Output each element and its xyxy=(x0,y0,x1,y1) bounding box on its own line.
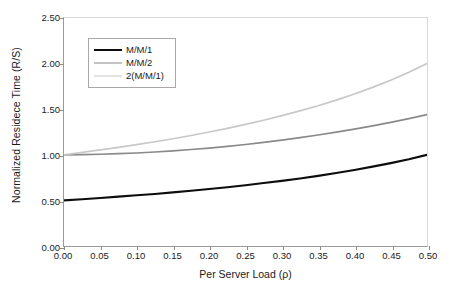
legend-label: 2(M/M/1) xyxy=(122,70,164,81)
x-tick-label: 0.20 xyxy=(189,250,229,261)
x-tick-label: 0.15 xyxy=(153,250,193,261)
y-tick-mark xyxy=(60,202,64,203)
x-tick-label: 0.10 xyxy=(116,250,156,261)
legend-item: M/M/1 xyxy=(94,43,170,56)
y-tick-mark xyxy=(60,110,64,111)
y-tick-label: 2.00 xyxy=(26,58,60,69)
y-tick-mark xyxy=(60,156,64,157)
x-tick-label: 0.05 xyxy=(80,250,120,261)
legend-line-icon xyxy=(94,62,122,63)
x-tick-label: 0.00 xyxy=(43,250,83,261)
chart-legend: M/M/1M/M/22(M/M/1) xyxy=(88,38,176,88)
x-axis-title: Per Server Load (ρ) xyxy=(63,268,428,280)
legend-swatch-2 xyxy=(94,57,122,69)
legend-swatch-1 xyxy=(94,44,122,56)
legend-item: M/M/2 xyxy=(94,56,170,69)
series-line xyxy=(64,155,427,201)
x-tick-label: 0.50 xyxy=(408,250,448,261)
x-tick-label: 0.30 xyxy=(262,250,302,261)
y-tick-label: 1.50 xyxy=(26,104,60,115)
y-tick-mark xyxy=(60,64,64,65)
series-line xyxy=(64,115,427,155)
y-tick-label: 0.50 xyxy=(26,196,60,207)
legend-label: M/M/2 xyxy=(122,57,152,68)
legend-label: M/M/1 xyxy=(122,44,152,55)
y-tick-mark xyxy=(60,18,64,19)
legend-swatch-3 xyxy=(94,70,122,82)
legend-line-icon xyxy=(94,49,122,51)
chart-figure: Normalized Residece Time (R/S) 0.000.501… xyxy=(0,0,461,301)
x-tick-label: 0.40 xyxy=(335,250,375,261)
x-tick-label: 0.45 xyxy=(372,250,412,261)
y-tick-label: 2.50 xyxy=(26,12,60,23)
legend-line-icon xyxy=(94,75,122,76)
x-tick-label: 0.25 xyxy=(226,250,266,261)
legend-item: 2(M/M/1) xyxy=(94,69,170,82)
x-tick-label: 0.35 xyxy=(299,250,339,261)
y-tick-label: 1.00 xyxy=(26,150,60,161)
y-axis-title-text: Normalized Residece Time (R/S) xyxy=(10,47,22,203)
x-axis-tick-labels: 0.000.050.100.150.200.250.300.350.400.45… xyxy=(63,250,428,266)
